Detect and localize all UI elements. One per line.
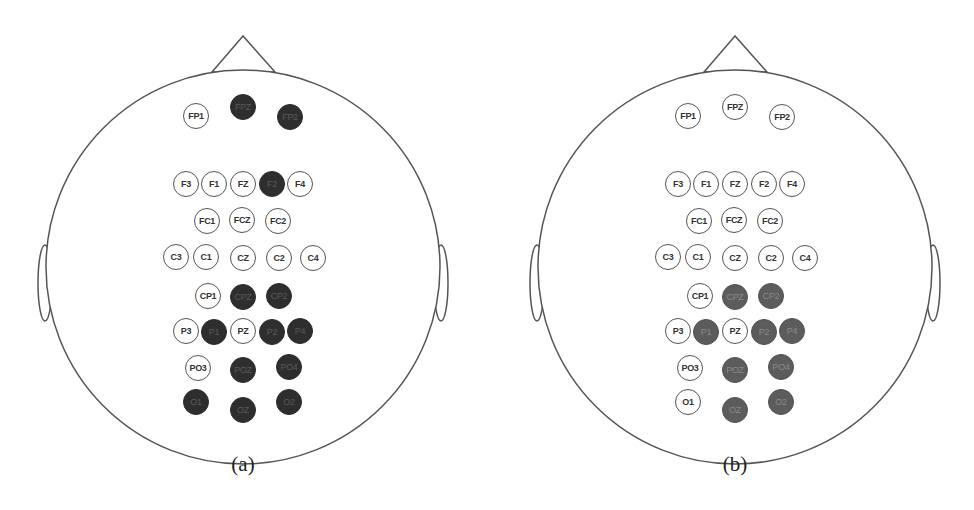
electrode-cpz: CPZ	[230, 284, 256, 310]
electrode-fp1: FP1	[675, 103, 701, 129]
electrode-fz: FZ	[722, 171, 748, 197]
electrode-c4: C4	[300, 245, 326, 271]
electrode-f4: F4	[287, 171, 313, 197]
electrode-fc1: FC1	[686, 208, 712, 234]
electrode-c1: C1	[685, 244, 711, 270]
electrode-c4: C4	[792, 245, 818, 271]
electrode-fpz: FPZ	[722, 94, 748, 120]
electrode-cp2: CP2	[266, 283, 292, 309]
electrode-poz: POZ	[230, 357, 256, 383]
electrode-oz: OZ	[230, 397, 256, 423]
electrode-poz: POZ	[722, 357, 748, 383]
electrode-fcz: FCZ	[229, 207, 255, 233]
electrode-p2: P2	[751, 319, 777, 345]
electrode-p4: P4	[779, 318, 805, 344]
electrode-fcz: FCZ	[721, 207, 747, 233]
caption-a: (a)	[203, 452, 283, 477]
electrode-fc2: FC2	[757, 208, 783, 234]
electrode-fc2: FC2	[265, 208, 291, 234]
electrode-p4: P4	[287, 318, 313, 344]
electrode-p3: P3	[665, 318, 691, 344]
panel-a: FP1FPZFP2F3F1FZF2F4FC1FCZFC2C3C1CZC2C4CP…	[0, 0, 487, 510]
electrode-pz: PZ	[230, 318, 256, 344]
electrode-c1: C1	[193, 244, 219, 270]
electrode-f3: F3	[665, 171, 691, 197]
electrode-fpz: FPZ	[230, 94, 256, 120]
electrode-f1: F1	[201, 171, 227, 197]
electrode-fc1: FC1	[194, 208, 220, 234]
electrode-fp2: FP2	[769, 104, 795, 130]
electrode-f4: F4	[779, 171, 805, 197]
electrode-cp2: CP2	[758, 283, 784, 309]
electrode-o1: O1	[183, 389, 209, 415]
electrode-c2: C2	[758, 245, 784, 271]
electrode-p1: P1	[201, 319, 227, 345]
electrode-po3: PO3	[185, 355, 211, 381]
electrode-po4: PO4	[276, 354, 302, 380]
electrode-f2: F2	[259, 171, 285, 197]
nose-icon	[704, 36, 767, 72]
electrode-fz: FZ	[230, 171, 256, 197]
electrode-po3: PO3	[677, 355, 703, 381]
panel-b: FP1FPZFP2F3F1FZF2F4FC1FCZFC2C3C1CZC2C4CP…	[492, 0, 974, 510]
electrode-o1: O1	[675, 389, 701, 415]
electrode-cz: CZ	[722, 245, 748, 271]
electrode-f1: F1	[693, 171, 719, 197]
electrode-c2: C2	[266, 245, 292, 271]
electrode-fp2: FP2	[277, 104, 303, 130]
electrode-po4: PO4	[768, 354, 794, 380]
electrode-o2: O2	[276, 389, 302, 415]
electrode-fp1: FP1	[183, 103, 209, 129]
electrode-o2: O2	[768, 389, 794, 415]
electrode-c3: C3	[163, 244, 189, 270]
electrode-p2: P2	[259, 319, 285, 345]
electrode-p3: P3	[173, 318, 199, 344]
electrode-f2: F2	[751, 171, 777, 197]
electrode-pz: PZ	[722, 318, 748, 344]
caption-b: (b)	[695, 452, 775, 477]
electrode-cz: CZ	[230, 245, 256, 271]
electrode-cpz: CPZ	[722, 284, 748, 310]
electrode-p1: P1	[693, 319, 719, 345]
electrode-oz: OZ	[722, 397, 748, 423]
electrode-cp1: CP1	[195, 283, 221, 309]
nose-icon	[212, 36, 275, 72]
electrode-f3: F3	[173, 171, 199, 197]
electrode-c3: C3	[655, 244, 681, 270]
electrode-cp1: CP1	[687, 283, 713, 309]
